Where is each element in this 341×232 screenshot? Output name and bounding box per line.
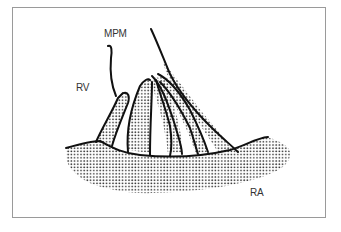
- strand-1: [96, 93, 129, 146]
- label-rv: RV: [76, 83, 89, 93]
- label-mpm: MPM: [104, 29, 127, 39]
- mpm-line: [108, 46, 116, 96]
- anatomy-drawing: [0, 0, 341, 232]
- label-ra: RA: [250, 188, 264, 198]
